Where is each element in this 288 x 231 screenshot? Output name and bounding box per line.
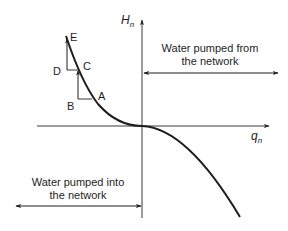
point-label-e: E	[70, 31, 77, 43]
pump-characteristic-diagram: Hn qn E D C B A Water pumped from the ne…	[0, 0, 288, 231]
into-network-line2: the network	[50, 189, 107, 201]
horizontal-axis: qn	[37, 126, 269, 145]
q-axis-label: qn	[251, 129, 263, 145]
into-network-line1: Water pumped into	[32, 176, 125, 188]
h-axis-label: Hn	[121, 13, 135, 29]
point-label-a: A	[98, 90, 106, 102]
point-label-d: D	[53, 65, 61, 77]
point-label-c: C	[83, 60, 91, 72]
annotation-pumped-from-network: Water pumped from the network	[144, 42, 278, 73]
point-label-b: B	[67, 100, 74, 112]
annotation-pumped-into-network: Water pumped into the network	[16, 176, 141, 206]
from-network-line2: the network	[182, 55, 239, 67]
from-network-line1: Water pumped from	[162, 42, 259, 54]
